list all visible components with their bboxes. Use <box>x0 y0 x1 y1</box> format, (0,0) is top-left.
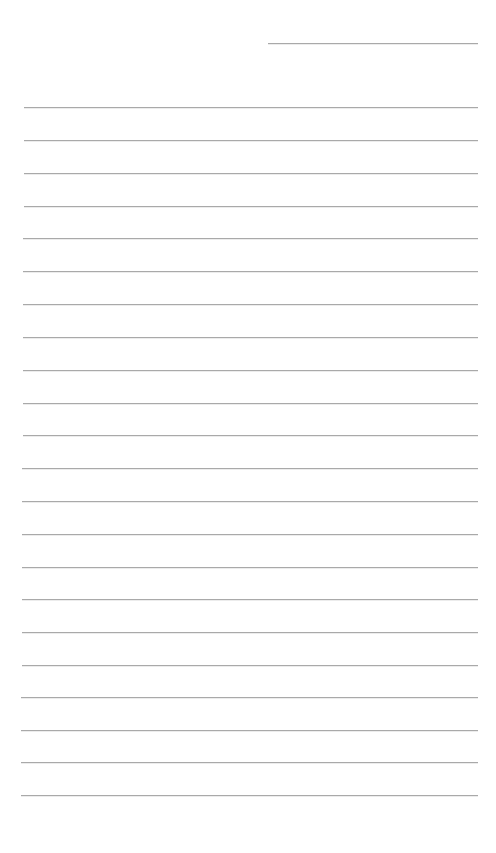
ruled-line <box>21 697 478 698</box>
ruled-line <box>23 271 478 272</box>
ruled-line <box>24 173 478 174</box>
ruled-line <box>22 632 478 633</box>
ruled-line <box>23 370 478 371</box>
ruled-line <box>21 762 478 763</box>
ruled-line <box>23 238 478 239</box>
ruled-line <box>21 795 478 796</box>
ruled-line <box>22 599 478 600</box>
ruled-line <box>23 403 478 404</box>
lined-paper-page <box>0 0 496 853</box>
ruled-line <box>23 435 478 436</box>
ruled-line <box>24 107 478 108</box>
ruled-line <box>22 567 478 568</box>
ruled-line <box>21 730 478 731</box>
ruled-line <box>22 665 478 666</box>
header-date-line <box>268 43 478 44</box>
ruled-line <box>22 468 478 469</box>
ruled-line <box>23 337 478 338</box>
ruled-line <box>22 534 478 535</box>
ruled-line <box>23 304 478 305</box>
ruled-line <box>24 140 478 141</box>
ruled-line <box>24 206 478 207</box>
ruled-line <box>22 501 478 502</box>
